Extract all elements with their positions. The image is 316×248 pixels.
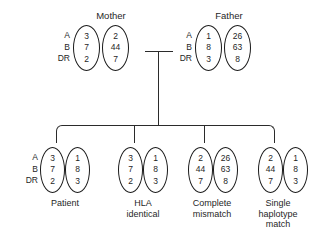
allele-b: 44 — [266, 164, 275, 176]
allele-b: 8 — [75, 164, 80, 176]
mother-locus-labels: A B DR — [46, 30, 70, 65]
sibling3-haplotype-c: 1 8 3 — [283, 147, 308, 193]
allele-a: 1 — [293, 153, 298, 165]
allele-b: 44 — [111, 42, 120, 54]
sibling2-haplotype-b: 2 44 7 — [188, 147, 213, 193]
caption-line: Single — [240, 198, 316, 209]
allele-a: 1 — [206, 31, 211, 43]
allele-a: 3 — [128, 153, 133, 165]
allele-b: 8 — [293, 164, 298, 176]
allele-a: 2 — [198, 153, 203, 165]
allele-b: 8 — [153, 164, 158, 176]
allele-b: 7 — [50, 164, 55, 176]
paternal-haplotype-d: 26 63 8 — [224, 25, 251, 71]
allele-dr: 3 — [75, 176, 80, 188]
caption-line: Patient — [25, 198, 105, 209]
allele-a: 1 — [153, 153, 158, 165]
maternal-haplotype-b: 2 44 7 — [102, 25, 129, 71]
patient-locus-labels: A B DR — [14, 152, 38, 187]
marriage-line — [145, 51, 173, 52]
locus-label-dr: DR — [46, 53, 70, 65]
locus-label-a: A — [46, 30, 70, 42]
locus-label-dr: DR — [168, 53, 192, 65]
allele-a: 3 — [50, 153, 55, 165]
allele-a: 3 — [84, 31, 89, 43]
allele-dr: 2 — [128, 176, 133, 188]
caption-line: match — [240, 219, 316, 230]
allele-a: 1 — [75, 153, 80, 165]
maternal-haplotype-a: 3 7 2 — [73, 25, 100, 71]
locus-label-b: B — [46, 42, 70, 54]
allele-dr: 2 — [84, 54, 89, 66]
locus-label-a: A — [14, 152, 38, 164]
sibship-drop-3 — [204, 125, 205, 143]
allele-dr: 2 — [50, 176, 55, 188]
sibship-drop-2 — [134, 125, 135, 143]
mother-title: Mother — [78, 10, 144, 21]
patient-haplotype-c: 1 8 3 — [65, 147, 90, 193]
allele-a: 2 — [113, 31, 118, 43]
allele-a: 26 — [233, 31, 242, 43]
child-caption-single-haplotype-match: Single haplotype match — [240, 198, 316, 230]
child-caption-patient: Patient — [25, 198, 105, 209]
allele-a: 2 — [268, 153, 273, 165]
allele-dr: 3 — [206, 54, 211, 66]
allele-dr: 7 — [113, 54, 118, 66]
father-title: Father — [196, 10, 262, 21]
allele-b: 8 — [206, 42, 211, 54]
descent-line — [158, 51, 159, 125]
allele-b: 63 — [233, 42, 242, 54]
hla-haplotype-pedigree-diagram: Mother Father A B DR 3 7 2 2 44 7 A B DR… — [0, 0, 316, 248]
allele-dr: 3 — [153, 176, 158, 188]
sibling2-haplotype-d: 26 63 8 — [213, 147, 238, 193]
locus-label-dr: DR — [14, 175, 38, 187]
patient-haplotype-a: 3 7 2 — [40, 147, 65, 193]
allele-a: 26 — [221, 153, 230, 165]
sibling1-haplotype-a: 3 7 2 — [118, 147, 143, 193]
allele-b: 7 — [128, 164, 133, 176]
paternal-haplotype-c: 1 8 3 — [195, 25, 222, 71]
allele-b: 7 — [84, 42, 89, 54]
father-locus-labels: A B DR — [168, 30, 192, 65]
sibling3-haplotype-b: 2 44 7 — [258, 147, 283, 193]
caption-line: haplotype — [240, 209, 316, 220]
allele-dr: 3 — [293, 176, 298, 188]
locus-label-b: B — [14, 164, 38, 176]
allele-dr: 8 — [223, 176, 228, 188]
allele-dr: 7 — [198, 176, 203, 188]
allele-dr: 8 — [235, 54, 240, 66]
sibling1-haplotype-c: 1 8 3 — [143, 147, 168, 193]
allele-b: 63 — [221, 164, 230, 176]
locus-label-a: A — [168, 30, 192, 42]
sibship-bar — [56, 125, 275, 143]
allele-b: 44 — [196, 164, 205, 176]
allele-dr: 7 — [268, 176, 273, 188]
